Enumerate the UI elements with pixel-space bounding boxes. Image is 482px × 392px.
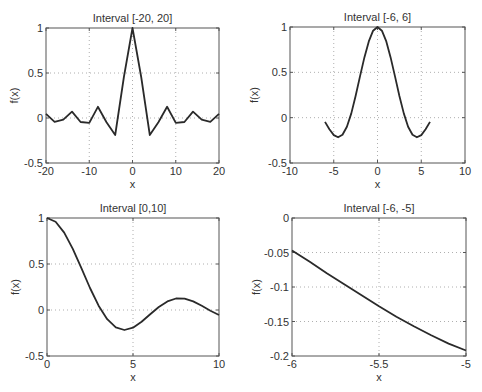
y-axis-label: f(x) (8, 88, 20, 104)
y-tick-label: -0.5 (268, 157, 287, 169)
y-tick-label: 0 (37, 112, 43, 124)
x-tick-label: 10 (213, 358, 225, 370)
grid (46, 28, 219, 163)
x-tick-label: -5 (329, 165, 339, 177)
y-axis-label: f(x) (250, 279, 262, 295)
x-tick-label: 0 (374, 165, 380, 177)
y-tick-label: -0.5 (25, 350, 44, 362)
subplot-title: Interval [-6, -5] (344, 202, 415, 214)
data-line (292, 250, 466, 350)
y-tick-label: 1 (281, 21, 287, 33)
y-tick-label: -0.1 (270, 281, 289, 293)
y-tick-label: -0.05 (264, 247, 289, 259)
y-tick-label: -0.15 (264, 316, 289, 328)
y-tick-label: 1 (38, 212, 44, 224)
y-tick-label: -0.5 (24, 157, 43, 169)
grid (290, 27, 465, 163)
figure: -20-1001020-0.500.51Interval [-20, 20]xf… (0, 0, 482, 392)
subplot-title: Interval [0,10] (100, 202, 167, 214)
y-tick-label: 0.5 (29, 258, 44, 270)
x-tick-label: 10 (170, 165, 182, 177)
x-tick-label: -10 (81, 165, 97, 177)
subplot-4: -6-5.5-5-0.2-0.15-0.1-0.050Interval [-6,… (250, 202, 471, 383)
x-tick-label: 0 (44, 358, 50, 370)
y-tick-label: 0 (38, 304, 44, 316)
subplot-3: 0510-0.500.51Interval [0,10]xf(x) (9, 202, 225, 383)
x-axis-label: x (376, 371, 382, 383)
subplot-title: Interval [-20, 20] (93, 12, 173, 24)
subplot-1: -20-1001020-0.500.51Interval [-20, 20]xf… (8, 12, 225, 190)
y-tick-label: 0 (281, 112, 287, 124)
y-tick-label: 0 (283, 212, 289, 224)
y-tick-label: 1 (37, 22, 43, 34)
y-axis-label: f(x) (9, 279, 21, 295)
y-axis-label: f(x) (248, 87, 260, 103)
x-tick-label: 0 (129, 165, 135, 177)
x-tick-label: 10 (459, 165, 471, 177)
x-tick-label: 5 (418, 165, 424, 177)
grid (47, 218, 219, 356)
y-tick-label: 0.5 (272, 66, 287, 78)
x-axis-label: x (130, 371, 136, 383)
x-tick-label: 5 (130, 358, 136, 370)
subplot-2: -10-50510-0.500.51Interval [-6, 6]xf(x) (248, 11, 471, 190)
y-tick-label: -0.2 (270, 350, 289, 362)
y-tick-label: 0.5 (28, 67, 43, 79)
figure-canvas: -20-1001020-0.500.51Interval [-20, 20]xf… (0, 0, 482, 392)
subplot-title: Interval [-6, 6] (344, 11, 411, 23)
x-tick-label: -5 (461, 358, 471, 370)
x-axis-label: x (375, 178, 381, 190)
x-tick-label: -5.5 (370, 358, 389, 370)
grid (292, 218, 466, 356)
x-axis-label: x (130, 178, 136, 190)
x-tick-label: 20 (213, 165, 225, 177)
